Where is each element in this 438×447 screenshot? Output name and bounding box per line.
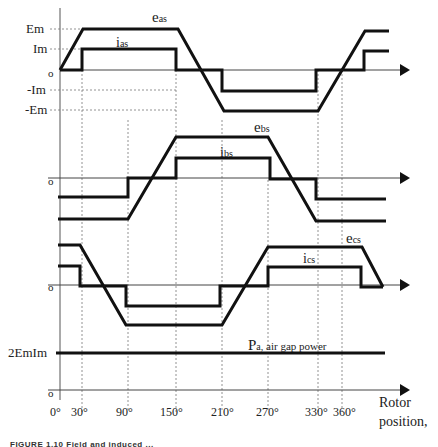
vertical-gridlines [82,70,342,412]
tick-360: 360° [333,405,356,419]
label-zero-b: o [48,175,54,187]
figure-caption: FIGURE 1.10 Field and induced ... [10,440,154,447]
label-im: Im [33,41,47,56]
tick-150: 150° [160,405,183,419]
svg-text:position,: position, [379,414,428,429]
tick-30: 30° [71,405,88,419]
tick-330: 330° [305,405,328,419]
ics-curve [58,266,383,306]
ics-label: ics [303,251,315,266]
pa-label: Pa, air gap power [248,337,327,353]
tick-210: 210° [211,405,234,419]
svg-text:Rotor: Rotor [379,395,411,410]
tick-90: 90° [116,405,133,419]
ibs-label: ibs [220,145,233,160]
arrow-icon [400,64,410,76]
tick-0: 0° [50,405,61,419]
label-zero: o [48,67,54,79]
label-zero-p: o [48,387,54,399]
label-neg-im: -Im [27,82,46,97]
x-axis-title: Rotor position, [379,395,428,429]
label-2emim: 2EmIm [8,345,47,360]
axis-arrows [400,64,410,396]
label-neg-em: -Em [25,102,47,117]
ecs-label: ecs [346,230,361,246]
arrow-icon [400,279,410,291]
series-labels: eas ias ebs ibs ecs ics Pa, air gap powe… [116,9,361,353]
ebs-label: ebs [254,119,270,135]
x-tick-labels: 0° 30° 90° 150° 210° 270° 330° 360° [50,405,356,419]
eas-label: eas [152,9,167,25]
y-level-labels: Em Im o -Im -Em o o 2EmIm o [8,21,54,399]
label-em: Em [26,21,44,36]
label-zero-c: o [48,281,54,293]
ias-label: ias [116,35,128,50]
tick-270: 270° [256,405,279,419]
waveform-figure: Em Im o -Im -Em o o 2EmIm o eas ias ebs … [0,0,438,447]
arrow-icon [400,172,410,184]
